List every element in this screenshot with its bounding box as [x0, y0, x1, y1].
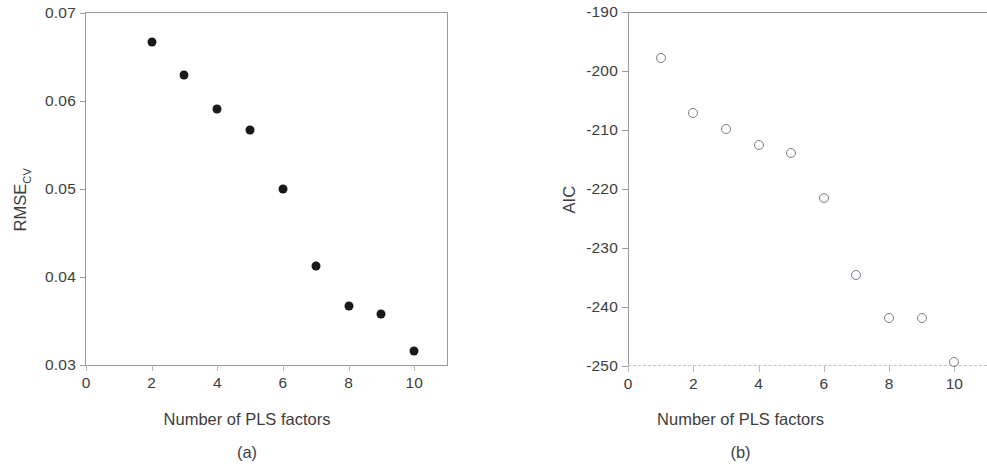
- caption-b: (b): [494, 443, 987, 462]
- y-tick-label-a: 0.03: [45, 356, 76, 374]
- x-tick-label-a: 2: [147, 374, 156, 392]
- y-tick-label-b: -250: [586, 357, 618, 375]
- x-tick-label-a: 6: [279, 374, 288, 392]
- x-tick-mark-b: [954, 366, 955, 372]
- x-tick-label-a: 0: [82, 374, 91, 392]
- y-tick-label-b: -200: [586, 62, 618, 80]
- y-axis-line-b: [628, 12, 629, 366]
- panel-b: -250-240-230-220-210-200-1900246810 AIC …: [494, 0, 987, 471]
- y-tick-label-b: -220: [586, 180, 618, 198]
- data-point-b: [884, 313, 894, 323]
- data-point-a: [246, 126, 255, 135]
- y-tick-mark-b: [622, 12, 628, 13]
- y-tick-label-a: 0.04: [45, 268, 76, 286]
- x-tick-mark-a: [283, 365, 284, 371]
- y-tick-label-b: -230: [586, 239, 618, 257]
- data-point-a: [311, 261, 320, 270]
- data-point-a: [213, 104, 222, 113]
- x-axis-title-a: Number of PLS factors: [0, 410, 494, 429]
- x-tick-mark-a: [414, 365, 415, 371]
- x-tick-mark-b: [628, 366, 629, 372]
- data-point-b: [688, 108, 698, 118]
- data-point-b: [851, 270, 861, 280]
- x-tick-mark-b: [824, 366, 825, 372]
- y-tick-mark-a: [80, 13, 86, 14]
- x-tick-mark-b: [693, 366, 694, 372]
- caption-a: (a): [0, 443, 494, 462]
- x-tick-label-b: 10: [946, 375, 963, 393]
- data-point-b: [754, 140, 764, 150]
- y-tick-mark-a: [80, 189, 86, 190]
- data-point-b: [656, 53, 666, 63]
- x-axis-title-b: Number of PLS factors: [494, 410, 987, 429]
- y-tick-label-a: 0.07: [45, 4, 76, 22]
- x-tick-label-b: 6: [820, 375, 829, 393]
- figure: 0.030.040.050.060.070246810 RMSECV Numbe…: [0, 0, 987, 471]
- y-tick-mark-b: [622, 307, 628, 308]
- y-tick-mark-b: [622, 248, 628, 249]
- x-axis-baseline-b: [628, 365, 987, 366]
- data-point-b: [917, 313, 927, 323]
- x-tick-mark-b: [759, 366, 760, 372]
- x-tick-label-b: 4: [754, 375, 763, 393]
- x-tick-label-b: 0: [624, 375, 633, 393]
- y-tick-mark-b: [622, 130, 628, 131]
- y-axis-title-a-main: RMSE: [11, 184, 29, 232]
- data-point-a: [147, 38, 156, 47]
- y-tick-mark-b: [622, 71, 628, 72]
- y-tick-mark-a: [80, 277, 86, 278]
- y-tick-mark-a: [80, 101, 86, 102]
- x-tick-label-a: 8: [344, 374, 353, 392]
- x-tick-label-a: 10: [406, 374, 423, 392]
- x-tick-label-a: 4: [213, 374, 222, 392]
- plot-area-b: -250-240-230-220-210-200-1900246810: [628, 12, 987, 366]
- y-tick-label-a: 0.05: [45, 180, 76, 198]
- x-tick-mark-a: [217, 365, 218, 371]
- x-tick-mark-a: [349, 365, 350, 371]
- top-frame-line-b: [628, 12, 987, 13]
- data-point-b: [721, 124, 731, 134]
- data-point-b: [949, 357, 959, 367]
- y-tick-label-b: -210: [586, 121, 618, 139]
- data-point-a: [377, 309, 386, 318]
- x-tick-mark-b: [889, 366, 890, 372]
- data-point-b: [786, 148, 796, 158]
- x-tick-label-b: 2: [689, 375, 698, 393]
- y-axis-title-b-main: AIC: [560, 186, 578, 214]
- data-point-b: [819, 193, 829, 203]
- panel-a: 0.030.040.050.060.070246810 RMSECV Numbe…: [0, 0, 494, 471]
- data-point-a: [344, 302, 353, 311]
- x-tick-mark-a: [86, 365, 87, 371]
- plot-area-a: 0.030.040.050.060.070246810: [85, 12, 448, 366]
- y-tick-label-a: 0.06: [45, 92, 76, 110]
- data-point-a: [180, 71, 189, 80]
- x-tick-mark-a: [152, 365, 153, 371]
- data-point-a: [410, 346, 419, 355]
- x-tick-label-b: 8: [885, 375, 894, 393]
- y-axis-title-b: AIC: [560, 145, 581, 255]
- y-axis-title-a: RMSECV: [11, 145, 32, 255]
- y-tick-mark-b: [622, 189, 628, 190]
- y-axis-title-a-subscript: CV: [21, 168, 33, 184]
- y-tick-label-b: -240: [586, 298, 618, 316]
- y-tick-label-b: -190: [586, 3, 618, 21]
- data-point-a: [278, 185, 287, 194]
